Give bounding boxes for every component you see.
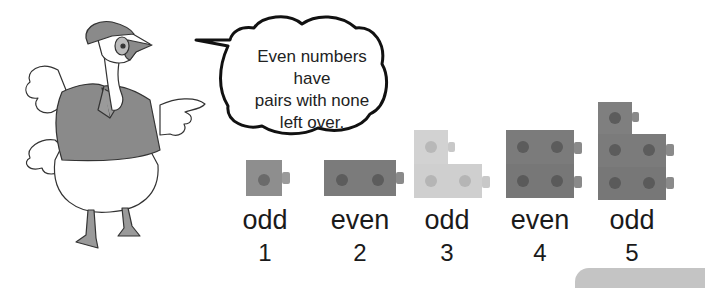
cube-group-3 [412,128,502,200]
parity-label-4: even [495,205,585,235]
speech-line-2: pairs with none [238,90,386,112]
number-label-2: 2 [315,238,405,268]
parity-label-5: odd [587,205,677,235]
speech-bubble-text: Even numbers have pairs with none left o… [238,46,386,134]
number-label-1: 1 [220,238,310,268]
parity-label-1: odd [220,205,310,235]
speech-line-3: left over. [238,112,386,134]
parity-label-3: odd [402,205,492,235]
cube-group-5 [596,100,686,202]
number-label-5: 5 [587,238,677,268]
page-corner-tab [575,268,705,288]
cube-group-1 [240,156,292,200]
number-label-4: 4 [495,238,585,268]
cube-group-2 [322,156,414,200]
cube-group-4 [504,128,594,200]
parity-label-2: even [315,205,405,235]
speech-line-1: Even numbers have [238,46,386,90]
number-label-3: 3 [402,238,492,268]
